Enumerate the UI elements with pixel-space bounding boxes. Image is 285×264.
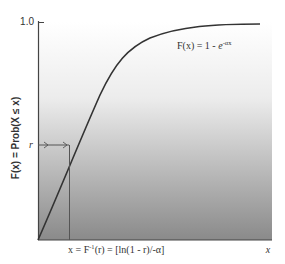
- y-tick-label-1: 1.0: [20, 16, 34, 27]
- x-axis-label: x: [265, 244, 271, 255]
- exponential-cdf-diagram: 1.0 r F(x) = Prob(X ≤ x) F(x) = 1 - e-αx…: [0, 0, 285, 264]
- plot-area: [38, 22, 272, 240]
- inverse-formula-label: x = F-1(r) = [ln(1 - r)/-α]: [68, 243, 164, 256]
- y-axis-label: F(x) = Prob(X ≤ x): [10, 97, 21, 179]
- r-label: r: [29, 139, 33, 150]
